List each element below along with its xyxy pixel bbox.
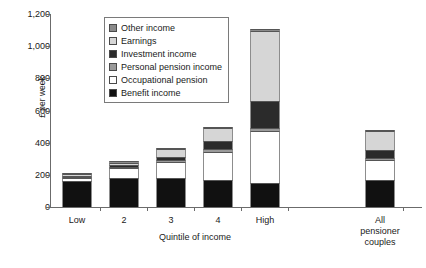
- legend-item[interactable]: Investment income: [109, 47, 222, 60]
- bar-segment[interactable]: [365, 160, 395, 179]
- bar-segment[interactable]: [156, 160, 186, 162]
- bar-segment[interactable]: [62, 178, 92, 181]
- x-tick-mark: [147, 207, 148, 211]
- bar-segment[interactable]: [365, 131, 395, 150]
- bar-segment[interactable]: [203, 152, 233, 181]
- bar-segment[interactable]: [156, 148, 186, 149]
- x-tick-mark: [403, 207, 404, 211]
- bar-segment[interactable]: [203, 180, 233, 207]
- bar-segment[interactable]: [62, 181, 92, 207]
- bar-segment[interactable]: [203, 149, 233, 152]
- x-tick-label-line: couples: [340, 237, 420, 248]
- legend-label: Other income: [121, 23, 175, 33]
- legend-swatch-icon: [109, 89, 117, 97]
- y-tick-label: 600: [4, 106, 50, 116]
- bar-segment[interactable]: [250, 183, 280, 207]
- bar-group[interactable]: [250, 14, 280, 207]
- bar-segment[interactable]: [109, 168, 139, 178]
- x-tick-label: High: [225, 215, 305, 226]
- bar-segment[interactable]: [250, 29, 280, 31]
- bar-segment[interactable]: [250, 31, 280, 101]
- bar-segment[interactable]: [156, 157, 186, 161]
- bar-segment[interactable]: [109, 163, 139, 165]
- bar-segment[interactable]: [109, 161, 139, 162]
- bar-segment[interactable]: [62, 173, 92, 174]
- bar-segment[interactable]: [203, 128, 233, 141]
- bar-segment[interactable]: [109, 167, 139, 168]
- legend-item[interactable]: Personal pension income: [109, 60, 222, 73]
- bar-segment[interactable]: [109, 165, 139, 167]
- x-tick-label-line: pensioner: [340, 226, 420, 237]
- y-tick-label: 200: [4, 170, 50, 180]
- legend-swatch-icon: [109, 63, 117, 71]
- bar-segment[interactable]: [109, 178, 139, 207]
- bar-group[interactable]: [365, 14, 395, 207]
- stacked-bar-chart: £ per week 02004006008001,0001,200 Quint…: [0, 0, 426, 268]
- x-tick-mark: [288, 207, 289, 211]
- bar-segment[interactable]: [203, 127, 233, 128]
- y-tick-label: 1,200: [4, 9, 50, 19]
- legend-swatch-icon: [109, 37, 117, 45]
- bar-segment[interactable]: [156, 162, 186, 178]
- legend-item[interactable]: Other income: [109, 21, 222, 34]
- x-axis-title: Quintile of income: [50, 232, 340, 242]
- x-tick-mark: [194, 207, 195, 211]
- bar-segment[interactable]: [62, 176, 92, 178]
- legend-swatch-icon: [109, 76, 117, 84]
- bar-segment[interactable]: [250, 131, 280, 182]
- x-tick-label: Allpensionercouples: [340, 215, 420, 248]
- y-tick-label: 400: [4, 138, 50, 148]
- bar-segment[interactable]: [250, 101, 280, 128]
- bar-segment[interactable]: [203, 141, 233, 149]
- bar-segment[interactable]: [156, 178, 186, 207]
- chart-legend: Other incomeEarningsInvestment incomePer…: [104, 17, 229, 103]
- legend-label: Earnings: [121, 36, 157, 46]
- bar-segment[interactable]: [365, 130, 395, 131]
- legend-label: Investment income: [121, 49, 197, 59]
- legend-label: Personal pension income: [121, 62, 222, 72]
- bar-segment[interactable]: [250, 128, 280, 131]
- x-tick-label-line: All: [340, 215, 420, 226]
- x-tick-mark: [100, 207, 101, 211]
- bar-segment[interactable]: [365, 150, 395, 158]
- y-tick-label: 0: [4, 202, 50, 212]
- y-tick-label: 1,000: [4, 41, 50, 51]
- legend-label: Benefit income: [121, 88, 181, 98]
- x-tick-label-line: High: [225, 215, 305, 226]
- x-axis-line: [50, 207, 422, 208]
- x-tick-mark: [241, 207, 242, 211]
- bar-group[interactable]: [62, 14, 92, 207]
- legend-label: Occupational pension: [121, 75, 208, 85]
- bar-segment[interactable]: [62, 174, 92, 175]
- legend-swatch-icon: [109, 50, 117, 58]
- bar-segment[interactable]: [365, 180, 395, 207]
- legend-item[interactable]: Benefit income: [109, 86, 222, 99]
- y-tick-label: 800: [4, 73, 50, 83]
- bar-segment[interactable]: [365, 158, 395, 160]
- legend-swatch-icon: [109, 24, 117, 32]
- bar-segment[interactable]: [156, 149, 186, 156]
- legend-item[interactable]: Occupational pension: [109, 73, 222, 86]
- legend-item[interactable]: Earnings: [109, 34, 222, 47]
